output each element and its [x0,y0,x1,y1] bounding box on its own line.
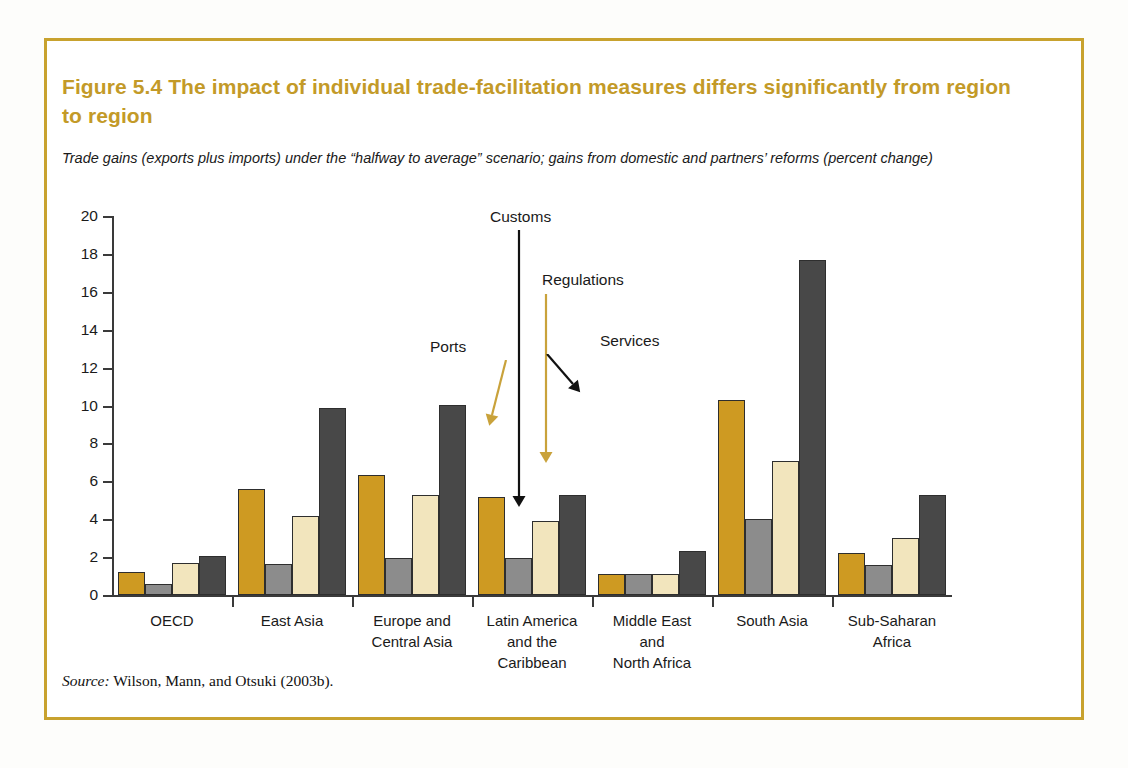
bar-ports[interactable] [118,572,145,595]
y-tick-label: 20 [81,207,98,225]
chart-plot-area: 02468101214161820 OECDEast AsiaEurope an… [112,216,952,595]
source-note: Source: Wilson, Mann, and Otsuki (2003b)… [62,672,333,690]
bars [118,216,226,595]
y-tick-mark [103,519,112,521]
bar-services[interactable] [919,495,946,595]
y-tick-label: 6 [89,472,98,490]
y-tick-mark [103,330,112,332]
y-tick-label: 4 [89,510,98,528]
figure-page: Figure 5.4 The impact of individual trad… [0,0,1128,768]
bars [718,216,826,595]
annotation-label-customs: Customs [490,208,551,226]
y-tick-label: 8 [89,434,98,452]
y-tick-label: 0 [89,586,98,604]
y-tick-label: 10 [81,397,98,415]
bar-services[interactable] [319,408,346,595]
bar-regulations[interactable] [172,563,199,595]
page-title: Figure 5.4 The impact of individual trad… [62,72,1022,130]
bar-customs[interactable] [745,519,772,595]
x-axis-separator [352,597,354,607]
y-tick-mark [103,292,112,294]
annotation-label-regulations: Regulations [542,271,624,289]
bar-group-south-asia [718,216,826,595]
y-tick-mark [103,254,112,256]
y-axis-line [112,216,114,595]
y-tick-label: 2 [89,548,98,566]
bars [838,216,946,595]
y-tick-label: 16 [81,283,98,301]
bar-customs[interactable] [505,558,532,595]
y-tick-mark [103,443,112,445]
bar-services[interactable] [799,260,826,595]
bars [238,216,346,595]
bar-services[interactable] [679,551,706,595]
x-axis-separator [592,597,594,607]
bar-ports[interactable] [238,489,265,595]
bar-customs[interactable] [265,564,292,595]
bar-ports[interactable] [358,475,385,595]
y-tick-label: 12 [81,359,98,377]
annotation-label-services: Services [600,332,659,350]
annotation-label-ports: Ports [430,338,466,356]
annotation-arrow-customs-icon [507,230,531,512]
x-axis-label-line: Sub-Saharan [812,610,972,631]
bar-customs[interactable] [625,574,652,595]
bar-regulations[interactable] [652,574,679,595]
y-tick-label: 14 [81,321,98,339]
y-tick-mark [103,481,112,483]
bar-ports[interactable] [718,400,745,595]
bar-regulations[interactable] [292,516,319,595]
annotation-arrow-services-icon [535,354,585,400]
bar-ports[interactable] [598,574,625,595]
source-citation: Wilson, Mann, and Otsuki (2003b). [110,672,334,689]
x-axis-label-line: and [572,631,732,652]
y-tick-mark [103,368,112,370]
bar-services[interactable] [439,405,466,595]
bar-customs[interactable] [145,584,172,595]
bar-group-sub-saharan-africa [838,216,946,595]
source-label: Source: [62,672,110,689]
y-tick-mark [103,406,112,408]
x-axis-label-sub-saharan-africa: Sub-SaharanAfrica [812,610,972,652]
y-tick-label: 18 [81,245,98,263]
bar-regulations[interactable] [412,495,439,595]
y-tick-mark [103,595,112,597]
bar-group-oecd [118,216,226,595]
y-tick-mark [103,216,112,218]
x-axis-separator [832,597,834,607]
bar-regulations[interactable] [772,461,799,595]
x-axis-label-line: North Africa [572,652,732,673]
y-tick-mark [103,557,112,559]
bar-customs[interactable] [865,565,892,595]
bar-regulations[interactable] [532,521,559,595]
bar-regulations[interactable] [892,538,919,595]
bar-group-europe-and-central-asia [358,216,466,595]
x-axis-line [112,595,952,597]
x-axis-separator [712,597,714,607]
bar-ports[interactable] [838,553,865,595]
bar-customs[interactable] [385,558,412,595]
figure-subtitle: Trade gains (exports plus imports) under… [62,148,1042,169]
bar-ports[interactable] [478,497,505,595]
bar-group-east-asia [238,216,346,595]
x-axis-label-line: Africa [812,631,972,652]
x-axis-separator [472,597,474,607]
bar-services[interactable] [199,556,226,595]
bar-services[interactable] [559,495,586,595]
bars [358,216,466,595]
x-axis-separator [232,597,234,607]
